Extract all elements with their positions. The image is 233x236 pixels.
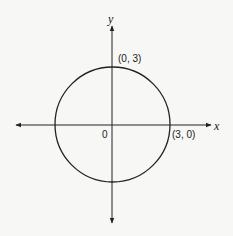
y-axis-label: y bbox=[107, 12, 114, 26]
origin-label: 0 bbox=[102, 129, 108, 140]
coordinate-plane-figure: y x 0 (0, 3) (3, 0) bbox=[0, 0, 233, 236]
point-label-3-0: (3, 0) bbox=[172, 129, 195, 140]
coordinate-plane-svg: y x 0 (0, 3) (3, 0) bbox=[0, 0, 233, 236]
point-label-0-3: (0, 3) bbox=[118, 53, 141, 64]
x-axis-label: x bbox=[213, 119, 220, 133]
